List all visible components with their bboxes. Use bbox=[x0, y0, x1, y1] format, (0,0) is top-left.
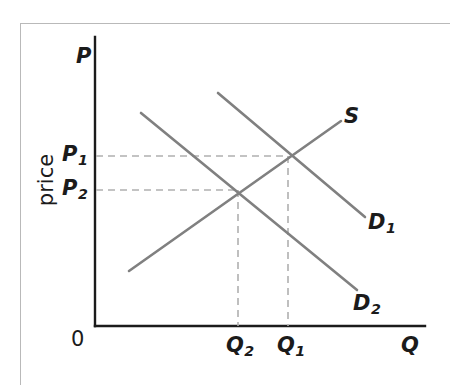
quantity-tick-q1-base: Q bbox=[277, 333, 295, 357]
y-axis-symbol: P bbox=[76, 44, 91, 68]
price-tick-p1-subscript: 1 bbox=[78, 152, 88, 168]
origin-label: 0 bbox=[71, 327, 84, 351]
price-tick-p1: P1 bbox=[62, 142, 88, 168]
price-tick-p2-subscript: 2 bbox=[78, 186, 88, 202]
supply-curve-label: S bbox=[344, 104, 359, 128]
axis-group bbox=[95, 37, 425, 326]
quantity-tick-q1-subscript: 1 bbox=[295, 343, 305, 359]
quantity-tick-q1: Q1 bbox=[277, 333, 305, 359]
demand-curve-d1-label: D1 bbox=[368, 210, 396, 236]
demand-d1-subscript: 1 bbox=[386, 220, 396, 236]
quantity-tick-q2: Q2 bbox=[226, 333, 254, 359]
price-tick-p2-base: P bbox=[62, 176, 77, 200]
demand-curve-d1 bbox=[218, 93, 365, 217]
x-axis-symbol: Q bbox=[401, 333, 419, 357]
quantity-tick-q2-base: Q bbox=[226, 333, 244, 357]
demand-d2-subscript: 2 bbox=[371, 301, 381, 317]
price-tick-p2: P2 bbox=[62, 176, 88, 202]
guide-line-group bbox=[96, 156, 288, 326]
quantity-tick-q2-subscript: 2 bbox=[244, 343, 254, 359]
price-tick-p1-base: P bbox=[62, 142, 77, 166]
demand-d2-base: D bbox=[353, 291, 370, 315]
supply-curve bbox=[129, 121, 341, 271]
y-axis-title: price bbox=[34, 132, 58, 228]
curve-group bbox=[129, 93, 365, 290]
supply-demand-figure: P price P1 P2 0 Q2 Q1 Q S D1 D2 bbox=[0, 0, 450, 385]
demand-curve-d2 bbox=[141, 113, 357, 290]
demand-d1-base: D bbox=[368, 210, 385, 234]
demand-curve-d2-label: D2 bbox=[353, 291, 381, 317]
